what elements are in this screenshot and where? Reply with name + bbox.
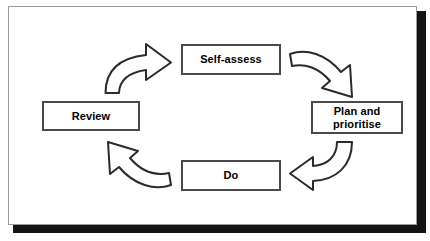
node-review-label: Review (72, 110, 111, 123)
cycle-diagram: Self-assess Plan and prioritise Do Revie… (0, 0, 430, 241)
node-review[interactable]: Review (42, 101, 140, 131)
node-plan-and-prioritise-label: Plan and prioritise (333, 105, 381, 131)
node-do[interactable]: Do (181, 160, 281, 191)
diagram-canvas: Self-assess Plan and prioritise Do Revie… (0, 0, 430, 241)
node-do-label: Do (224, 169, 239, 182)
arrow-plan-to-do-icon (290, 142, 352, 190)
arrow-self-assess-to-plan-icon (290, 52, 352, 97)
node-plan-and-prioritise-line2: prioritise (333, 118, 381, 131)
arrow-do-to-review-icon (108, 142, 171, 187)
node-self-assess[interactable]: Self-assess (181, 44, 281, 75)
arrow-review-to-self-assess-icon (106, 44, 172, 93)
node-plan-and-prioritise[interactable]: Plan and prioritise (311, 101, 403, 134)
node-plan-and-prioritise-line1: Plan and (333, 105, 381, 118)
node-self-assess-label: Self-assess (200, 53, 262, 66)
